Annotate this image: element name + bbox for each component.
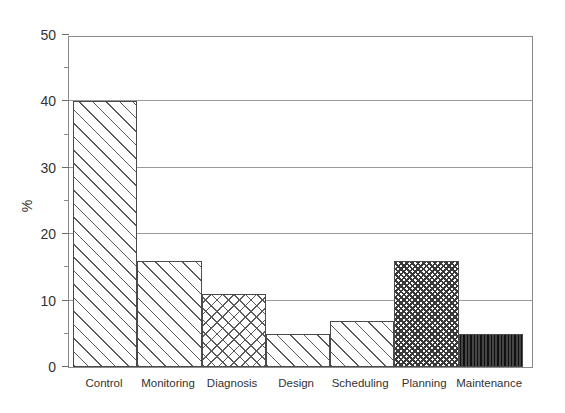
x-axis-tick-labels: ControlMonitoringDiagnosisDesignScheduli…: [72, 372, 522, 398]
x-tick-label-maintenance: Maintenance: [456, 372, 522, 398]
x-tick-label-monitoring: Monitoring: [136, 372, 200, 398]
y-tick-minor-35: [64, 134, 69, 135]
y-tick-minor-25: [64, 200, 69, 201]
y-tick-minor-5: [64, 333, 69, 334]
x-tick-label-scheduling: Scheduling: [328, 372, 392, 398]
y-tick-minor-45: [64, 67, 69, 68]
y-tick-label-10: 10: [14, 293, 56, 309]
plot-area: [68, 36, 533, 368]
y-tick-label-40: 40: [14, 93, 56, 109]
y-tick-major-20: [62, 233, 69, 234]
x-tick-label-planning: Planning: [392, 372, 456, 398]
x-tick-label-diagnosis: Diagnosis: [200, 372, 264, 398]
bar-slot-design: [266, 37, 330, 367]
bar-slot-scheduling: [330, 37, 394, 367]
y-axis-label: %: [9, 193, 45, 219]
y-tick-major-40: [62, 100, 69, 101]
y-tick-major-30: [62, 167, 69, 168]
y-tick-label-0: 0: [14, 359, 56, 375]
y-tick-label-30: 30: [14, 160, 56, 176]
bar-slot-diagnosis: [202, 37, 266, 367]
y-tick-major-10: [62, 300, 69, 301]
y-tick-label-50: 50: [14, 27, 56, 43]
bar-slot-planning: [394, 37, 458, 367]
bar-scheduling[interactable]: [330, 321, 394, 367]
x-tick-label-control: Control: [72, 372, 136, 398]
bar-series: [73, 37, 523, 367]
bar-diagnosis[interactable]: [202, 294, 266, 367]
x-tick-label-design: Design: [264, 372, 328, 398]
bar-control[interactable]: [73, 101, 137, 367]
y-tick-major-0: [62, 366, 69, 367]
bar-design[interactable]: [266, 334, 330, 367]
bar-slot-control: [73, 37, 137, 367]
y-tick-major-50: [62, 34, 69, 35]
bar-slot-maintenance: [459, 37, 523, 367]
bar-monitoring[interactable]: [137, 261, 201, 367]
bar-slot-monitoring: [137, 37, 201, 367]
bar-planning[interactable]: [394, 261, 458, 367]
bar-chart: % 01020304050 ControlMonitoringDiagnosis…: [0, 0, 565, 413]
y-tick-minor-15: [64, 266, 69, 267]
bar-maintenance[interactable]: [459, 334, 523, 367]
y-tick-label-20: 20: [14, 226, 56, 242]
